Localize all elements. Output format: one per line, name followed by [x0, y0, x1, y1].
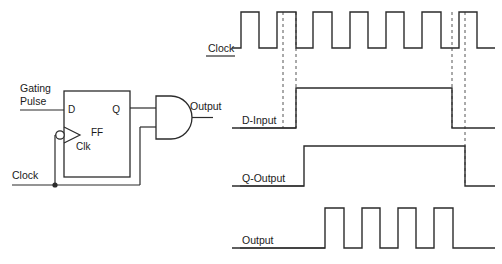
waveform-label-output: Output	[242, 234, 274, 246]
timing-diagram: Clock D-Input Q-Output Output	[0, 0, 502, 264]
waveform-label-d-input: D-Input	[242, 114, 277, 126]
figure-canvas: Gating Pulse D Q Clk FF Clock Output	[0, 0, 502, 264]
waveform-label-q-output: Q-Output	[242, 172, 285, 184]
waveform-clock	[232, 12, 495, 48]
alignment-markers	[283, 12, 465, 186]
waveform-label-clock: Clock	[208, 42, 235, 54]
signal-traces	[232, 12, 495, 248]
